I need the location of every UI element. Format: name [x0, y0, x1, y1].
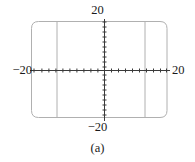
calculator-plot-graphic — [0, 0, 195, 162]
figure-container: 20 −20 −20 20 (a) — [0, 0, 195, 162]
y-axis-min-label: −20 — [0, 121, 195, 134]
x-axis-min-label: −20 — [2, 64, 32, 77]
y-axis-max-label: 20 — [0, 4, 195, 17]
figure-caption: (a) — [0, 142, 195, 155]
plot-axes — [30, 19, 170, 121]
x-axis-max-label: 20 — [172, 64, 195, 77]
